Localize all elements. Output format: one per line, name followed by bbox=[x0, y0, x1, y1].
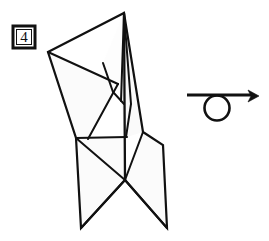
origami-diagram-canvas: 4 bbox=[0, 0, 269, 241]
crease-waist bbox=[76, 137, 127, 138]
step-number-label: 4 bbox=[20, 29, 28, 45]
step-number-badge: 4 bbox=[13, 26, 35, 48]
crease-center-spine bbox=[124, 13, 125, 180]
origami-diagram-svg: 4 bbox=[0, 0, 269, 241]
